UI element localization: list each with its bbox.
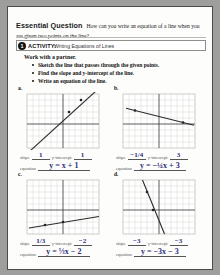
- section-divider: [16, 37, 206, 38]
- slope-label: slope: [20, 155, 30, 160]
- essential-question-title: Essential Question: [16, 21, 83, 30]
- equation-row-a: equation y = x + 1: [16, 162, 112, 171]
- essential-question-text-line1: How can you write an equation of a line …: [87, 23, 200, 29]
- equation-row-c: equation y = ⅓x − 2: [16, 248, 112, 257]
- slope-label: slope: [116, 155, 126, 160]
- slope-value-a[interactable]: 1: [32, 152, 50, 160]
- answer-row-b: slope −1/4 y-intercept 3: [112, 152, 208, 160]
- slope-label: slope: [20, 241, 30, 246]
- list-item: Find the slope and y-intercept of the li…: [32, 70, 202, 76]
- graph-b: [120, 92, 198, 150]
- problem-b: b.: [112, 85, 208, 171]
- problems-grid: a.: [16, 85, 208, 257]
- problem-letter: a.: [18, 85, 112, 92]
- problem-letter: b.: [114, 85, 208, 92]
- directions-bullet-list: Sketch the line that passes through the …: [32, 62, 202, 87]
- equation-row-d: equation y = −3x − 3: [112, 248, 208, 257]
- activity-label: ACTIVITY:: [28, 43, 56, 49]
- answer-row-c: slope 1/3 y-intercept −2: [16, 238, 112, 246]
- equation-value-d[interactable]: y = −3x − 3: [134, 248, 186, 257]
- equation-label: equation: [20, 252, 36, 257]
- equation-label: equation: [116, 252, 132, 257]
- worksheet-page: Essential Question How can you write an …: [7, 6, 213, 270]
- problem-a: a.: [16, 85, 112, 171]
- essential-question-block: Essential Question How can you write an …: [16, 14, 206, 39]
- problem-c: c.: [16, 171, 112, 257]
- problem-d: d.: [112, 171, 208, 257]
- intercept-value-c[interactable]: −2: [74, 238, 92, 246]
- intercept-value-d[interactable]: −3: [170, 238, 188, 246]
- problems-row-bottom: c.: [16, 171, 208, 257]
- list-item: Sketch the line that passes through the …: [32, 62, 202, 68]
- answer-row-a: slope 1 y-intercept 1: [16, 152, 112, 160]
- slope-value-d[interactable]: −3: [128, 238, 146, 246]
- graph-a: [24, 92, 102, 150]
- graph-c: [24, 178, 102, 236]
- problem-letter: d.: [114, 171, 208, 178]
- intercept-label: y-intercept: [52, 155, 72, 160]
- list-item: Write an equation of the line.: [32, 78, 202, 84]
- problem-letter: c.: [18, 171, 112, 178]
- intercept-label: y-intercept: [52, 241, 72, 246]
- slope-value-b[interactable]: −1/4: [128, 152, 146, 160]
- equation-value-b[interactable]: y = −¼x + 3: [134, 162, 186, 171]
- slope-value-c[interactable]: 1/3: [32, 238, 50, 246]
- slope-label: slope: [116, 241, 126, 246]
- equation-row-b: equation y = −¼x + 3: [112, 162, 208, 171]
- directions-heading: Work with a partner.: [24, 54, 76, 60]
- intercept-value-a[interactable]: 1: [74, 152, 92, 160]
- intercept-label: y-intercept: [148, 241, 168, 246]
- answer-row-d: slope −3 y-intercept −3: [112, 238, 208, 246]
- graph-d: [120, 178, 198, 236]
- equation-value-c[interactable]: y = ⅓x − 2: [38, 248, 90, 257]
- intercept-value-b[interactable]: 3: [170, 152, 188, 160]
- equation-value-a[interactable]: y = x + 1: [38, 162, 90, 171]
- problems-row-top: a.: [16, 85, 208, 171]
- essential-question-text-line2: are given two points on the line?: [16, 33, 206, 39]
- intercept-label: y-intercept: [148, 155, 168, 160]
- activity-number-badge: 1: [18, 42, 26, 50]
- activity-header-bar: 1 ACTIVITY: Writing Equations of Lines: [16, 40, 206, 51]
- activity-subtitle: Writing Equations of Lines: [54, 43, 114, 49]
